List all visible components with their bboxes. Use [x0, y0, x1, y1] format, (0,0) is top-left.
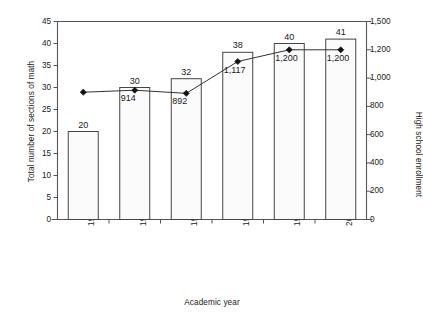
bar	[120, 88, 150, 220]
enrollment-value-label: 892	[172, 96, 187, 106]
enrollment-value-label: 1,117	[224, 65, 246, 75]
bar	[326, 39, 356, 219]
chart-figure: Total number of sections of math High sc…	[0, 0, 423, 323]
bar-value-label: 40	[284, 32, 294, 42]
bar	[223, 52, 253, 219]
bar	[274, 44, 304, 220]
enrollment-value-label: 914	[121, 93, 136, 103]
bar-value-label: 38	[233, 40, 243, 50]
enrollment-value-label: 1,200	[275, 53, 298, 63]
enrollment-value-label: 1,200	[327, 53, 350, 63]
bar	[68, 132, 98, 220]
enrollment-marker	[80, 89, 86, 95]
bar-value-label: 41	[336, 27, 346, 37]
plot-area: 2030323840419148921,1171,2001,200	[0, 0, 423, 323]
bar-value-label: 32	[181, 67, 191, 77]
bar-value-label: 20	[78, 120, 88, 130]
bar-value-label: 30	[130, 76, 140, 86]
